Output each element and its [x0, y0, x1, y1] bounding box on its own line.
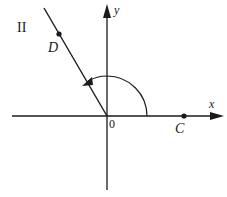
x-axis-arrow-icon — [210, 112, 224, 120]
angle-arc-arrow-icon — [82, 77, 93, 86]
angle-arc — [88, 76, 147, 116]
x-axis-label: x — [208, 97, 215, 111]
y-axis — [103, 4, 111, 190]
point-c-label: C — [175, 121, 185, 136]
ray-od — [44, 8, 107, 116]
y-axis-arrow-icon — [103, 4, 111, 18]
x-axis — [12, 112, 224, 120]
point-d-label: D — [47, 40, 58, 55]
diagram-canvas: II D C 0 x y — [0, 0, 227, 197]
y-axis-label: y — [113, 3, 120, 17]
point-c-dot — [181, 113, 186, 118]
quadrant-label: II — [17, 20, 27, 35]
point-d-dot — [56, 31, 61, 36]
origin-label: 0 — [109, 117, 115, 131]
